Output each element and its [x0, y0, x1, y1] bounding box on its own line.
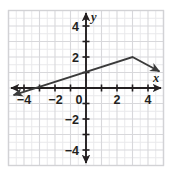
coordinate-plane-svg: −4 −2 0 2 4 4 2 −2 −4 y x [0, 0, 172, 178]
x-axis-label: x [152, 71, 159, 85]
x-tick-label-neg2: −2 [48, 93, 62, 107]
y-tick-label-neg4: −4 [65, 144, 79, 158]
x-tick-label-neg4: −4 [17, 93, 31, 107]
coordinate-graph-figure: −4 −2 0 2 4 4 2 −2 −4 y x [0, 0, 172, 178]
y-axis-label: y [89, 10, 97, 24]
x-tick-label-pos4: 4 [145, 93, 152, 107]
y-tick-label-pos4: 4 [72, 20, 79, 34]
y-tick-label-neg2: −2 [65, 113, 79, 127]
y-tick-label-pos2: 2 [72, 51, 79, 65]
x-tick-label-origin: 0 [76, 93, 83, 107]
x-tick-label-pos2: 2 [114, 93, 121, 107]
